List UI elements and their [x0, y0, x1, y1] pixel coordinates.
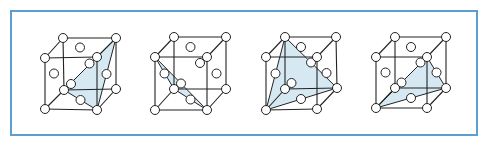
face-atom	[85, 59, 94, 68]
face-atom	[297, 43, 306, 52]
face-atom	[381, 68, 390, 77]
corner-atom	[442, 33, 451, 42]
corner-atom	[170, 85, 179, 94]
fcc-planes-diagram	[0, 0, 493, 146]
cube-edge	[266, 109, 317, 110]
cube-3	[262, 33, 342, 115]
corner-atom	[41, 105, 50, 114]
face-atom	[322, 69, 331, 78]
corner-atom	[112, 34, 121, 43]
face-atom	[186, 43, 195, 52]
corner-atom	[372, 104, 381, 113]
corner-atom	[41, 54, 50, 63]
cube-edge	[63, 38, 64, 90]
face-atom	[432, 68, 441, 77]
face-atom	[76, 96, 85, 105]
face-atom	[102, 70, 111, 79]
cube-4	[372, 33, 451, 113]
cube-2	[151, 33, 231, 115]
corner-atom	[222, 85, 231, 94]
corner-atom	[391, 33, 400, 42]
corner-atom	[442, 84, 451, 93]
corner-atom	[281, 33, 290, 42]
corner-atom	[372, 53, 381, 62]
cube-edge	[45, 57, 97, 58]
cube-1	[41, 34, 121, 115]
corner-atom	[112, 85, 121, 94]
corner-atom	[203, 106, 212, 115]
cube-edge	[336, 37, 337, 88]
face-atom	[407, 43, 416, 52]
corner-atom	[203, 53, 212, 62]
corner-atom	[423, 53, 432, 62]
face-atom	[50, 69, 59, 78]
corner-atom	[281, 85, 290, 94]
corner-atom	[59, 34, 68, 43]
corner-atom	[93, 53, 102, 62]
corner-atom	[170, 33, 179, 42]
corner-atom	[222, 33, 231, 42]
corner-atom	[333, 84, 342, 93]
corner-atom	[332, 33, 341, 42]
corner-atom	[313, 105, 322, 114]
corner-atom	[391, 84, 400, 93]
corner-atom	[60, 86, 69, 95]
corner-atom	[262, 53, 271, 62]
corner-atom	[313, 53, 322, 62]
face-atom	[212, 69, 221, 78]
corner-atom	[151, 106, 160, 115]
corner-atom	[93, 106, 102, 115]
face-atom	[76, 43, 85, 52]
cube-edge	[45, 109, 97, 110]
face-atom	[271, 69, 280, 78]
face-atom	[186, 95, 195, 104]
corner-atom	[262, 106, 271, 115]
face-atom	[160, 69, 169, 78]
corner-atom	[423, 104, 432, 113]
corner-atom	[151, 53, 160, 62]
face-atom	[297, 95, 306, 104]
face-atom	[407, 94, 416, 103]
